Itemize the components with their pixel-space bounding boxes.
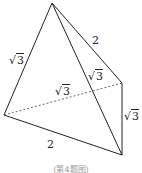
- edge-apex-right: [52, 3, 122, 83]
- tetrahedron-diagram: [0, 0, 142, 173]
- label-right-bottom: √3: [124, 111, 139, 122]
- sqrt-sign: √: [55, 85, 62, 98]
- sqrt-sign: √: [124, 110, 131, 123]
- sqrt-sign: √: [88, 70, 95, 83]
- label-left-right: √3: [55, 86, 70, 97]
- label-apex-right: 2: [92, 35, 99, 46]
- sqrt-sign: √: [9, 54, 16, 67]
- edge-apex-bottom: [52, 3, 122, 155]
- radicand: 3: [131, 109, 139, 123]
- label-left-bottom: 2: [47, 139, 54, 150]
- edge-left-bottom: [4, 115, 122, 155]
- label-apex-bottom: √3: [88, 71, 103, 82]
- label-apex-left: √3: [9, 55, 24, 66]
- radicand: 3: [62, 84, 70, 98]
- figure-caption: (第4题图): [0, 163, 142, 173]
- radicand: 3: [16, 53, 24, 67]
- radicand: 3: [95, 69, 103, 83]
